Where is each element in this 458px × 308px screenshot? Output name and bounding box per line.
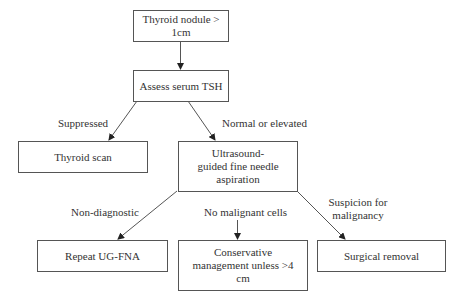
edge-label-suspicion: Suspicion for malignancy: [328, 196, 388, 222]
node-thyroid-scan: Thyroid scan: [18, 141, 148, 173]
edge-label-suppressed: Suppressed: [58, 117, 108, 130]
edge-label-nondiagnostic: Non-diagnostic: [71, 206, 139, 219]
edge-label-no-malignant: No malignant cells: [204, 206, 287, 219]
edge-label-normal: Normal or elevated: [222, 117, 307, 130]
node-thyroid-nodule: Thyroid nodule > 1cm: [133, 10, 229, 42]
node-us-fna: Ultrasound-guided fine needle aspiration: [178, 141, 298, 192]
node-assess-tsh: Assess serum TSH: [133, 70, 229, 102]
node-repeat-fna: Repeat UG-FNA: [37, 240, 168, 272]
node-conservative-management: Conservative management unless >4 cm: [178, 240, 308, 291]
node-surgical-removal: Surgical removal: [317, 240, 446, 272]
